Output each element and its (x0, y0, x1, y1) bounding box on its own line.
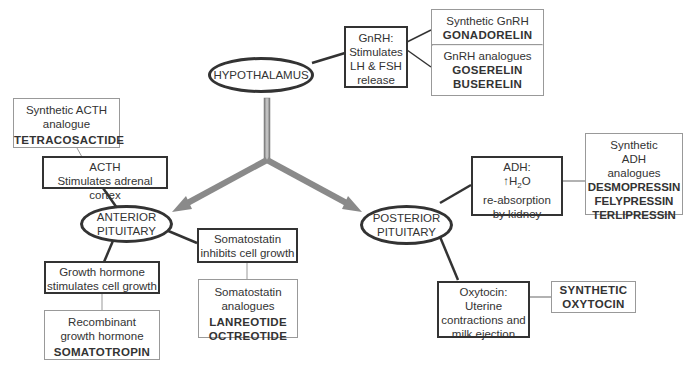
adh-line-3: re-absorption (473, 193, 561, 207)
felypressin-drug: FELYPRESSIN (586, 194, 682, 208)
hypothalamus-label: HYPOTHALAMUS (213, 68, 308, 82)
gnrh-line-1: GnRH: (346, 31, 406, 45)
synthetic-oxytocin-line-2: OXYTOCIN (552, 297, 635, 311)
anterior-label-1: ANTERIOR (97, 210, 156, 224)
somatostatin-analogues-box: Somatostatin analogues LANREOTIDE OCTREO… (198, 279, 298, 338)
somatostatin-line-2: inhibits cell growth (199, 246, 296, 260)
adh-box: ADH: ↑H2O re-absorption by kidney (471, 156, 563, 216)
somatostatin-line-1: Somatostatin (199, 232, 296, 246)
adh-synthetic-line-3: analogues (586, 166, 682, 180)
somatostatin-box: Somatostatin inhibits cell growth (197, 228, 298, 263)
recombinant-line-1: Recombinant (45, 315, 159, 329)
gnrh-line-4: release (346, 73, 406, 87)
acth-box: ACTH Stimulates adrenal cortex (42, 156, 168, 189)
adh-analogues-box: Synthetic ADH analogues DESMOPRESSIN FEL… (585, 133, 683, 215)
goserelin-drug: GOSERELIN (432, 63, 543, 77)
gonadorelin-drug: GONADORELIN (432, 28, 543, 42)
synthetic-acth-line-2: analogue (14, 117, 119, 131)
growth-hormone-line-2: stimulates cell growth (46, 279, 158, 293)
oxytocin-box: Oxytocin: Uterine contractions and milk … (437, 281, 530, 338)
posterior-label-2: PITUITARY (377, 225, 436, 239)
adh-line-2: ↑H2O (473, 174, 561, 193)
synthetic-oxytocin-line-1: SYNTHETIC (552, 283, 635, 297)
lanreotide-drug: LANREOTIDE (199, 315, 297, 329)
gnrh-box: GnRH: Stimulates LH & FSH release (344, 26, 408, 88)
tetracosactide-drug: TETRACOSACTIDE (14, 133, 119, 147)
oxytocin-line-3: contractions and (439, 313, 528, 327)
oxytocin-line-4: milk ejection (439, 327, 528, 341)
synthetic-acth-line-1: Synthetic ACTH (14, 103, 119, 117)
posterior-label-1: POSTERIOR (373, 211, 441, 225)
oxytocin-line-2: Uterine (439, 299, 528, 313)
oxytocin-line-1: Oxytocin: (439, 285, 528, 299)
acth-line-2: Stimulates adrenal cortex (44, 174, 166, 202)
adh-line-1: ADH: (473, 160, 561, 174)
synthetic-acth-box: Synthetic ACTH analogue TETRACOSACTIDE (13, 98, 120, 148)
octreotide-drug: OCTREOTIDE (199, 329, 297, 343)
recombinant-gh-box: Recombinant growth hormone SOMATOTROPIN (44, 310, 160, 360)
gnrh-line-2: Stimulates (346, 45, 406, 59)
adh-synthetic-line-1: Synthetic (586, 138, 682, 152)
acth-line-1: ACTH (44, 160, 166, 174)
desmopressin-drug: DESMOPRESSIN (586, 180, 682, 194)
buserelin-drug: BUSERELIN (432, 77, 543, 91)
anterior-label-2: PITUITARY (97, 224, 156, 238)
terlipressin-drug: TERLIPRESSIN (586, 208, 682, 222)
posterior-pituitary-node: POSTERIOR PITUITARY (360, 205, 453, 245)
adh-line-4: by kidney (473, 207, 561, 221)
synthetic-oxytocin-box: SYNTHETIC OXYTOCIN (551, 281, 636, 313)
somatostatin-analogues-line-1: Somatostatin (199, 285, 297, 299)
growth-hormone-line-1: Growth hormone (46, 265, 158, 279)
adh-synthetic-line-2: ADH (586, 152, 682, 166)
growth-hormone-box: Growth hormone stimulates cell growth (44, 261, 160, 294)
recombinant-line-2: growth hormone (45, 329, 159, 343)
somatotropin-drug: SOMATOTROPIN (45, 345, 159, 359)
hypothalamus-node: HYPOTHALAMUS (208, 57, 314, 93)
synthetic-gnrh-label: Synthetic GnRH (432, 14, 543, 28)
gnrh-drugs-box: Synthetic GnRH GONADORELIN GnRH analogue… (431, 9, 544, 96)
gnrh-line-3: LH & FSH (346, 59, 406, 73)
gnrh-analogues-label: GnRH analogues (432, 49, 543, 63)
anterior-pituitary-node: ANTERIOR PITUITARY (80, 205, 173, 243)
somatostatin-analogues-line-2: analogues (199, 299, 297, 313)
